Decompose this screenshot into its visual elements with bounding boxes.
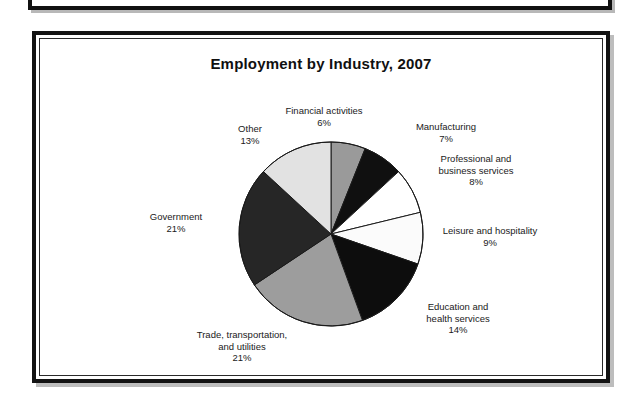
pie-label-trade-transportation-utilities-value: 21% xyxy=(162,352,322,364)
pie-label-professional-business-services-name-line2: business services xyxy=(412,165,540,177)
pie-label-education-and-health-services-value: 14% xyxy=(398,324,518,336)
pie-label-manufacturing-value: 7% xyxy=(392,133,500,145)
pie-label-trade-transportation-utilities: Trade, transportation, and utilities 21% xyxy=(162,329,322,364)
pie-slices xyxy=(239,142,423,326)
pie-label-manufacturing-name: Manufacturing xyxy=(392,121,500,133)
pie-label-other-value: 13% xyxy=(208,135,292,147)
figure-inner-border: Employment by Industry, 2007 Financial xyxy=(39,38,603,376)
pie-label-education-and-health-services: Education and health services 14% xyxy=(398,301,518,336)
pie-label-leisure-and-hospitality-name: Leisure and hospitality xyxy=(410,225,570,237)
pie-label-trade-transportation-utilities-name-line1: Trade, transportation, xyxy=(162,329,322,341)
pie-label-education-and-health-services-name-line2: health services xyxy=(398,313,518,325)
pie-label-government: Government 21% xyxy=(120,211,232,234)
pie-label-other-name: Other xyxy=(208,123,292,135)
pie-label-manufacturing: Manufacturing 7% xyxy=(392,121,500,144)
figure-frame: Employment by Industry, 2007 Financial xyxy=(32,31,610,383)
pie-label-government-value: 21% xyxy=(120,223,232,235)
pie-label-financial-activities-name: Financial activities xyxy=(258,105,390,117)
pie-label-professional-business-services-name-line1: Professional and xyxy=(412,153,540,165)
pie-label-leisure-and-hospitality: Leisure and hospitality 9% xyxy=(410,225,570,248)
pie-label-education-and-health-services-name-line1: Education and xyxy=(398,301,518,313)
pie-chart: Financial activities 6% Manufacturing 7%… xyxy=(40,39,618,391)
pie-label-professional-business-services: Professional and business services 8% xyxy=(412,153,540,188)
pie-label-leisure-and-hospitality-value: 9% xyxy=(410,237,570,249)
clipped-figure-frame-above xyxy=(28,0,612,10)
pie-label-trade-transportation-utilities-name-line2: and utilities xyxy=(162,341,322,353)
pie-label-professional-business-services-value: 8% xyxy=(412,176,540,188)
pie-label-government-name: Government xyxy=(120,211,232,223)
pie-label-other: Other 13% xyxy=(208,123,292,146)
